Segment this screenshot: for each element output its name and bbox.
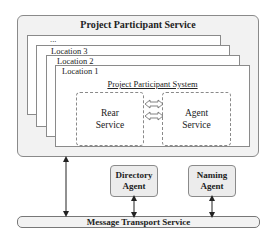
double-arrow-icon: [145, 100, 163, 120]
connector-arrows: [0, 0, 275, 240]
